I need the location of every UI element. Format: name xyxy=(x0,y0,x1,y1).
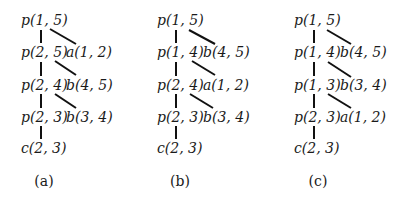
branch-node: b(4, 5) xyxy=(340,44,387,60)
spine-node: p(2, 3) xyxy=(157,109,204,125)
spine-node: p(2, 5) xyxy=(21,44,68,60)
branch-node: a(1, 2) xyxy=(340,109,386,125)
tree-edges-a xyxy=(0,0,130,198)
branch-node: b(3, 4) xyxy=(66,109,113,125)
leaf-node: c(2, 3) xyxy=(21,140,66,156)
branch-node: b(3, 4) xyxy=(203,109,250,125)
leaf-node: c(2, 3) xyxy=(294,140,339,156)
spine-node: p(1, 5) xyxy=(294,12,341,28)
spine-node: p(1, 4) xyxy=(157,44,204,60)
branch-node: b(4, 5) xyxy=(66,77,113,93)
spine-node: p(2, 4) xyxy=(157,77,204,93)
spine-node: p(2, 3) xyxy=(294,109,341,125)
spine-node: p(1, 5) xyxy=(157,12,204,28)
spine-node: p(1, 3) xyxy=(294,77,341,93)
panel-caption: (a) xyxy=(34,173,53,189)
tree-panel-a: p(1, 5) p(2, 5) p(2, 4) p(2, 3) c(2, 3) … xyxy=(0,0,130,198)
leaf-node: c(2, 3) xyxy=(157,140,202,156)
spine-node: p(2, 4) xyxy=(21,77,68,93)
tree-edges-b xyxy=(135,0,265,198)
spine-node: p(2, 3) xyxy=(21,109,68,125)
panel-caption: (c) xyxy=(309,173,328,189)
branch-node: a(1, 2) xyxy=(203,77,249,93)
branch-node: b(3, 4) xyxy=(340,77,387,93)
spine-node: p(1, 5) xyxy=(21,12,68,28)
branch-node: b(4, 5) xyxy=(203,44,250,60)
tree-edges-c xyxy=(260,0,390,198)
branch-node: a(1, 2) xyxy=(66,44,112,60)
panel-caption: (b) xyxy=(170,173,190,189)
tree-panel-c: p(1, 5) p(1, 4) p(1, 3) p(2, 3) c(2, 3) … xyxy=(260,0,390,198)
spine-node: p(1, 4) xyxy=(294,44,341,60)
tree-panel-b: p(1, 5) p(1, 4) p(2, 4) p(2, 3) c(2, 3) … xyxy=(135,0,265,198)
